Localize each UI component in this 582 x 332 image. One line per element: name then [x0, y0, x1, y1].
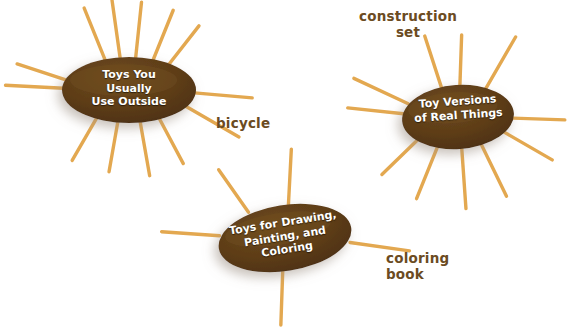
ray: [417, 145, 439, 199]
outer-label-coloring-book: coloring book: [386, 251, 449, 282]
cluster-oval-toys-for-drawing-painting-and-coloring[interactable]: [214, 195, 357, 281]
ray: [112, 1, 120, 60]
ray: [513, 118, 565, 120]
ray: [84, 8, 106, 62]
ray: [382, 138, 419, 174]
ray: [288, 149, 291, 207]
ray: [505, 132, 553, 160]
ray: [17, 64, 66, 80]
rays-layer: [6, 1, 565, 325]
ray: [348, 108, 404, 114]
ray: [159, 118, 183, 164]
ray: [162, 232, 220, 236]
ray: [485, 37, 516, 91]
ray: [168, 26, 199, 65]
ray: [194, 93, 252, 98]
ray: [354, 78, 408, 103]
ray: [462, 147, 466, 209]
ray: [109, 121, 118, 172]
outer-label-bicycle: bicycle: [216, 116, 270, 132]
ray: [219, 170, 249, 213]
ray: [6, 85, 64, 88]
ray: [153, 10, 174, 61]
diagram-canvas: [0, 0, 582, 332]
outer-label-construction-set: construction set: [359, 9, 457, 40]
ray: [481, 144, 506, 196]
cluster-oval-toys-you-usually-use-outside[interactable]: [62, 57, 196, 123]
ray: [281, 269, 283, 325]
ray: [425, 36, 442, 88]
ray: [72, 117, 97, 160]
ray: [135, 2, 141, 60]
ray: [140, 121, 150, 176]
oval-highlight: [70, 64, 177, 96]
ray: [460, 35, 462, 87]
